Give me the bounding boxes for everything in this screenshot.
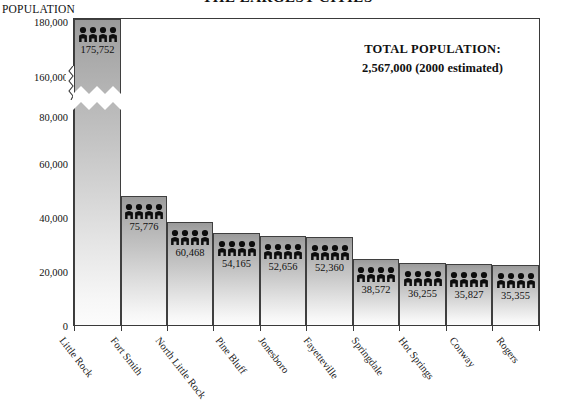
people-group-icon bbox=[75, 26, 120, 42]
people-group-icon bbox=[261, 243, 305, 259]
bar-break-zigzag-icon bbox=[73, 84, 122, 120]
bar-value-label: 35,355 bbox=[493, 290, 538, 301]
total-population-value: 2,567,000 (2000 estimated) bbox=[330, 59, 535, 78]
y-tick-20000: 20,000 bbox=[39, 267, 68, 278]
chart-title: THE LARGEST CITIES bbox=[0, 0, 575, 6]
x-label-little-rock: Little Rock bbox=[57, 335, 95, 379]
x-label-pine-bluff: Pine Bluff bbox=[213, 335, 248, 376]
y-tick-80000: 80,000 bbox=[39, 112, 68, 123]
x-label-hot-springs: Hot Springs bbox=[396, 335, 436, 382]
bar-value-label: 60,468 bbox=[168, 247, 212, 258]
total-population-label: TOTAL POPULATION: bbox=[330, 40, 535, 59]
bar-little-rock[interactable]: 175,752 bbox=[74, 19, 121, 325]
y-tick-60000: 60,000 bbox=[39, 159, 68, 170]
x-label-fort-smith: Fort Smith bbox=[108, 335, 145, 377]
bar-springdale[interactable]: 38,572 bbox=[353, 259, 399, 325]
bar-jonesboro[interactable]: 52,656 bbox=[260, 236, 306, 325]
bar-value-label: 75,776 bbox=[122, 221, 166, 232]
people-group-icon bbox=[447, 271, 491, 287]
bar-fayetteville[interactable]: 52,360 bbox=[306, 237, 353, 325]
x-label-rogers: Rogers bbox=[494, 335, 521, 365]
y-tick-40000: 40,000 bbox=[39, 213, 68, 224]
people-group-icon bbox=[168, 229, 212, 245]
bar-value-label: 38,572 bbox=[354, 284, 398, 295]
total-population-annotation: TOTAL POPULATION: 2,567,000 (2000 estima… bbox=[330, 40, 535, 79]
bar-pine-bluff[interactable]: 54,165 bbox=[213, 233, 260, 325]
bar-value-label: 54,165 bbox=[214, 258, 259, 269]
bar-value-label: 175,752 bbox=[75, 44, 120, 55]
bar-value-label: 36,255 bbox=[400, 288, 445, 299]
people-group-icon bbox=[354, 266, 398, 282]
y-tick-180000: 180,000 bbox=[34, 17, 68, 28]
people-group-icon bbox=[493, 272, 538, 288]
bar-value-label: 35,827 bbox=[447, 289, 491, 300]
x-label-springdale: Springdale bbox=[349, 335, 386, 378]
bar-value-label: 52,360 bbox=[307, 262, 352, 273]
x-label-fayetteville: Fayetteville bbox=[301, 335, 340, 381]
y-tick-160000: 160,000 bbox=[34, 72, 68, 83]
people-group-icon bbox=[400, 270, 445, 286]
bar-rogers[interactable]: 35,355 bbox=[492, 265, 539, 325]
x-label-jonesboro: Jonesboro bbox=[256, 335, 291, 375]
bar-conway[interactable]: 35,827 bbox=[446, 264, 492, 325]
x-axis-labels: Little Rock Fort Smith North Little Rock… bbox=[0, 330, 575, 412]
bar-fort-smith[interactable]: 75,776 bbox=[121, 196, 167, 325]
bar-value-label: 52,656 bbox=[261, 261, 305, 272]
population-bar-chart: THE LARGEST CITIES POPULATION 0 20,000 4… bbox=[0, 0, 575, 412]
people-group-icon bbox=[122, 203, 166, 219]
people-group-icon bbox=[307, 244, 352, 260]
x-label-conway: Conway bbox=[447, 335, 477, 369]
people-group-icon bbox=[214, 240, 259, 256]
bar-hot-springs[interactable]: 36,255 bbox=[399, 263, 446, 325]
bar-north-little-rock[interactable]: 60,468 bbox=[167, 222, 213, 325]
x-label-north-little-rock: North Little Rock bbox=[153, 335, 208, 401]
